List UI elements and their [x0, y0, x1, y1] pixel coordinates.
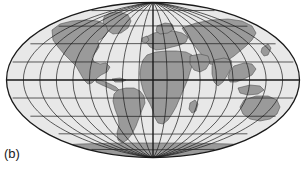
figure-panel: (b) [0, 0, 306, 170]
world-map [0, 0, 306, 170]
panel-label: (b) [4, 146, 20, 162]
